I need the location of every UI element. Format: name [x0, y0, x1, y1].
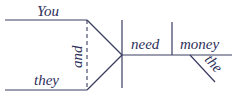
word-money: money: [180, 36, 219, 52]
sentence-diagram: You they and need money the: [0, 0, 245, 102]
diagram-svg: You they and need money the: [0, 0, 245, 102]
word-they: they: [34, 72, 59, 88]
word-you: You: [37, 3, 59, 19]
word-and: and: [69, 45, 85, 68]
join-top-diagonal: [87, 20, 122, 55]
join-bottom-diagonal: [87, 55, 122, 90]
word-need: need: [131, 36, 160, 52]
